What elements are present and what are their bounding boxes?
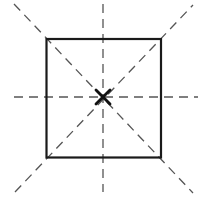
symmetry-diagram — [0, 0, 220, 216]
